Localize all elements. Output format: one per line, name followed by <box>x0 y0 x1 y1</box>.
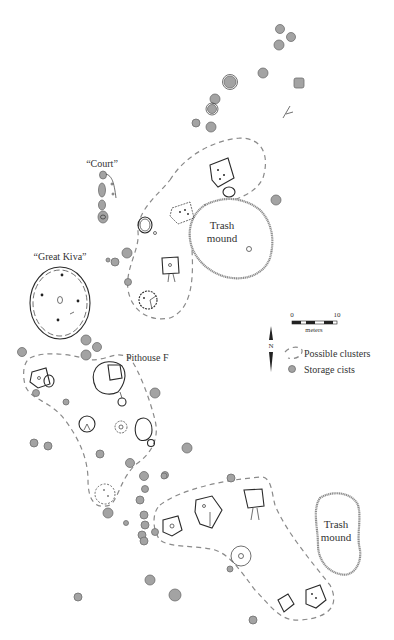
legend-clusters-label: Possible clusters <box>304 348 370 359</box>
trash-mound-lower-label-line1: Trash <box>324 518 349 530</box>
great-kiva: “Great Kiva” <box>30 251 90 339</box>
pithouse <box>244 489 264 508</box>
great-kiva-label: “Great Kiva” <box>33 251 86 262</box>
great-kiva-outer-wall <box>30 267 90 339</box>
storage-cist-icon <box>289 366 296 373</box>
trash-mound-lower-label-line2: mound <box>321 531 352 543</box>
trash-mound-upper-label-line2: mound <box>207 232 238 244</box>
pithouse-f-label: Pithouse F <box>126 352 169 363</box>
legend-item-clusters: Possible clusters <box>285 347 370 359</box>
pithouse <box>231 546 251 566</box>
great-kiva-bench <box>33 270 87 336</box>
court-label: “Court” <box>86 158 118 169</box>
legend: Possible clusters Storage cists <box>285 347 370 375</box>
trash-mound-lower: Trash mound <box>316 493 360 574</box>
pithouse <box>139 291 157 309</box>
pithouse <box>162 257 179 274</box>
storage-cists <box>18 25 305 625</box>
site-map: Trash mound Trash mound “Great Kiva” “Co… <box>0 0 394 640</box>
hearth-icon <box>58 297 63 304</box>
pithouse <box>195 496 222 528</box>
north-arrow-icon: N <box>268 326 273 372</box>
pithouse <box>278 594 294 612</box>
pithouse <box>30 368 50 388</box>
feature-sketch <box>283 106 293 118</box>
scale-bar: 0 10 meters <box>290 311 341 333</box>
pithouse <box>306 585 326 608</box>
pithouse <box>163 516 182 536</box>
scale-end-label: 10 <box>334 311 342 319</box>
pithouse <box>95 484 115 504</box>
cluster-south <box>154 477 334 620</box>
scale-start-label: 0 <box>290 311 294 319</box>
legend-item-cists: Storage cists <box>289 364 355 375</box>
trash-mound-upper: Trash mound <box>190 199 273 278</box>
north-label: N <box>268 342 273 350</box>
pithouse <box>210 158 234 187</box>
antechamber <box>118 398 126 406</box>
legend-cists-label: Storage cists <box>304 364 355 375</box>
dashed-outline-icon <box>285 347 302 358</box>
pithouse <box>135 418 152 440</box>
antechamber <box>223 187 235 197</box>
cluster-outlines <box>24 138 334 620</box>
cluster-pithouse-f <box>24 354 157 506</box>
structures <box>30 158 326 612</box>
scale-unit-label: meters <box>305 326 323 333</box>
court: “Court” <box>86 158 118 223</box>
trash-mound-upper-label-line1: Trash <box>210 219 235 231</box>
